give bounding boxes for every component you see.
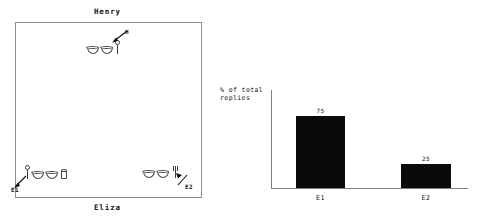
bar-value-label-e1: 75 [296, 107, 345, 114]
scene-bottom-label: Eliza [0, 203, 215, 212]
bowl-icon [156, 170, 169, 178]
scene-panel: Henry H [0, 0, 215, 223]
bar-chart: % of total replies 75 25 E1 E2 [215, 0, 481, 223]
bowl-icon [142, 170, 155, 178]
figure-root: Henry H [0, 0, 481, 223]
object-group-eliza-right [142, 166, 179, 178]
annotation-label-eliza-right: E2 [185, 183, 193, 190]
object-group-eliza-left [24, 165, 68, 179]
bar-e1 [296, 116, 345, 188]
bowl-icon [45, 171, 58, 179]
scene-top-label: Henry [0, 7, 215, 16]
bar-value-label-e2: 25 [401, 155, 451, 162]
annotation-label-eliza-left: E1 [11, 186, 19, 193]
bowl-icon [100, 46, 113, 54]
cup-icon [61, 169, 68, 179]
bar-category-label-e2: E2 [401, 194, 451, 202]
bowl-icon [31, 171, 44, 179]
bowl-icon [86, 46, 99, 54]
chart-y-axis-label: % of total replies [220, 86, 263, 102]
chart-x-axis-line [271, 188, 468, 189]
bar-category-label-e1: E1 [296, 194, 345, 202]
chart-y-axis-line [271, 90, 272, 188]
bar-e2 [401, 164, 451, 188]
annotation-label-henry: H [125, 28, 129, 35]
